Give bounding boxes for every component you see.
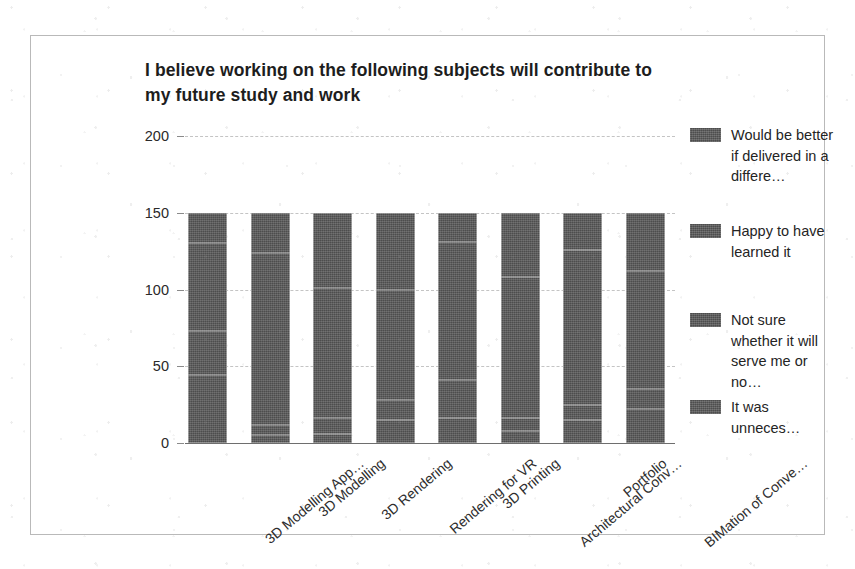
y-axis-tick [177,366,184,367]
axis-baseline [185,443,675,444]
y-axis-tick-label: 200 [145,128,169,144]
bar-segment[interactable] [313,418,352,433]
bar-segment[interactable] [251,435,290,443]
bar-segment[interactable] [438,418,477,443]
bar-segment[interactable] [313,434,352,443]
y-axis-tick [177,443,184,444]
legend-entry[interactable]: Not sure whether it will serve me or no… [690,310,841,392]
bar-segment[interactable] [563,420,602,443]
bar-segment[interactable] [626,409,665,443]
y-axis-tick [177,290,184,291]
legend-color-swatch [690,400,721,414]
bar-segment[interactable] [188,375,227,443]
bar-segment[interactable] [376,290,415,401]
bar-segment[interactable] [438,380,477,418]
bar-segment[interactable] [188,243,227,330]
bar-segment[interactable] [438,213,477,242]
legend-label: Happy to have learned it [731,221,841,262]
legend-label: Not sure whether it will serve me or no… [731,310,841,392]
bar-segment[interactable] [563,405,602,420]
legend-label: Would be better if delivered in a differ… [731,125,841,187]
legend-color-swatch [690,128,721,142]
bar-segment[interactable] [251,425,290,436]
bar-segment[interactable] [563,250,602,405]
bar-segment[interactable] [501,277,540,418]
y-axis-tick [177,136,184,137]
y-axis-tick-label: 150 [145,205,169,221]
legend-color-swatch [690,224,721,238]
gridline [185,136,675,137]
bar-segment[interactable] [376,420,415,443]
bar-segment[interactable] [501,418,540,430]
bar-segment[interactable] [313,288,352,418]
bar-segment[interactable] [438,242,477,380]
y-axis-tick-label: 0 [161,435,169,451]
bar-segment[interactable] [501,431,540,443]
y-axis-tick [177,213,184,214]
bar-segment[interactable] [188,331,227,376]
bar-segment[interactable] [251,213,290,253]
bar-segment[interactable] [376,400,415,420]
chart-title: I believe working on the following subje… [145,58,665,108]
legend-entry[interactable]: Happy to have learned it [690,221,841,262]
legend-entry[interactable]: It was unneces… [690,397,841,438]
legend-color-swatch [690,313,721,327]
y-axis-tick-label: 100 [145,282,169,298]
bar-segment[interactable] [626,213,665,271]
y-axis-tick-label: 50 [153,358,169,374]
bar-segment[interactable] [376,213,415,290]
plot-area: 0501001502003D Modelling App…3D Modellin… [185,136,675,443]
legend-entry[interactable]: Would be better if delivered in a differ… [690,125,841,187]
bar-segment[interactable] [313,213,352,288]
bar-segment[interactable] [251,253,290,425]
bar-segment[interactable] [501,213,540,277]
bar-segment[interactable] [626,271,665,389]
legend-label: It was unneces… [731,397,841,438]
bar-segment[interactable] [626,389,665,409]
bar-segment[interactable] [188,213,227,244]
bar-segment[interactable] [563,213,602,250]
